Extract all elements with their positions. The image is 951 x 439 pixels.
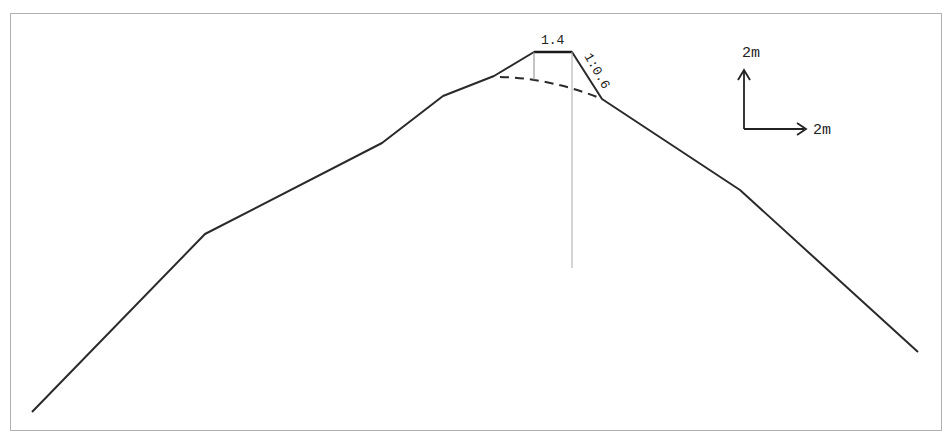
original-ground-dashed — [500, 77, 602, 99]
ground-profile-line — [32, 52, 918, 412]
scale-indicator: 2m 2m — [738, 45, 831, 139]
slope-ratio-label: 1:0.6 — [581, 51, 613, 92]
horizontal-scale-label: 2m — [813, 122, 831, 139]
profile-diagram: 1.4 1:0.6 2m 2m — [0, 0, 951, 439]
vertical-scale-label: 2m — [742, 45, 760, 62]
top-width-label: 1.4 — [541, 33, 565, 48]
